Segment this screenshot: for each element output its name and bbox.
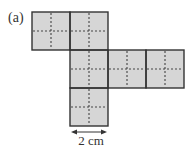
net-square bbox=[108, 50, 146, 88]
net-square bbox=[70, 50, 108, 88]
net-square bbox=[70, 12, 108, 50]
net-square bbox=[70, 88, 108, 126]
cube-net-diagram bbox=[0, 0, 190, 147]
dimension-label: 2 cm bbox=[72, 133, 110, 147]
net-square bbox=[32, 12, 70, 50]
net-square bbox=[146, 50, 184, 88]
